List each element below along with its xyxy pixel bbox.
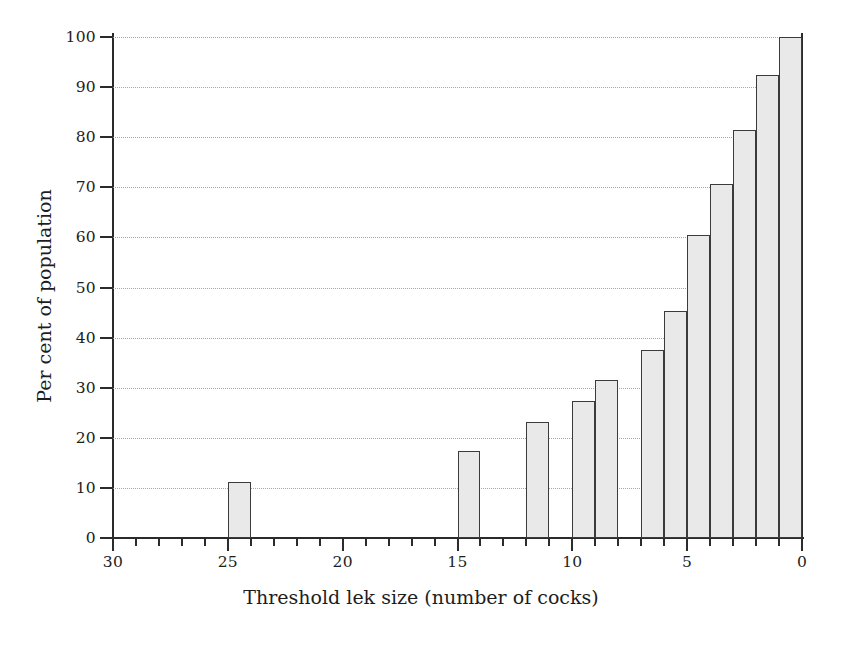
x-axis-major-tick [342,538,344,551]
bar [458,451,481,538]
y-axis-tick [100,437,113,439]
y-axis-tick [100,236,113,238]
x-axis-tick-label: 30 [83,553,143,571]
x-axis-minor-tick [434,538,436,546]
y-axis-tick-label: 30 [36,379,96,397]
x-axis-minor-tick [479,538,481,546]
x-axis-minor-tick [181,538,183,546]
x-axis-minor-tick [663,538,665,546]
y-axis-tick [100,136,113,138]
y-axis-tick-label: 40 [36,329,96,347]
y-axis-tick-label: 60 [36,228,96,246]
x-axis-major-tick [112,538,114,551]
y-axis-tick-label: 90 [36,78,96,96]
x-axis-minor-tick [594,538,596,546]
x-axis-tick-label: 5 [657,553,717,571]
y-axis-tick-labels: 0102030405060708090100 [24,0,96,645]
bar [664,311,687,538]
bar [756,75,779,538]
x-axis-tick-label: 0 [772,553,832,571]
x-axis-minor-tick [548,538,550,546]
x-axis-minor-tick [755,538,757,546]
x-axis-minor-tick [732,538,734,546]
x-axis-major-tick [227,538,229,551]
bar [526,422,549,538]
y-axis-tick-label: 10 [36,479,96,497]
x-axis-tick-label: 10 [542,553,602,571]
y-axis-tick-label: 50 [36,279,96,297]
bar-chart-figure: Per cent of population 01020304050607080… [0,0,842,645]
x-axis-major-tick [686,538,688,551]
y-axis-tick-label: 70 [36,178,96,196]
x-axis-minor-tick [319,538,321,546]
bar [228,482,251,538]
gridline [113,187,802,188]
plot-area [113,37,802,538]
x-axis-minor-tick [640,538,642,546]
bar [779,37,802,538]
x-axis-title: Threshold lek size (number of cocks) [0,586,842,608]
x-axis-tick-label: 15 [428,553,488,571]
x-axis-minor-tick [158,538,160,546]
y-axis-tick [100,86,113,88]
y-axis-tick-label: 80 [36,128,96,146]
gridline [113,137,802,138]
y-axis-tick [100,186,113,188]
x-axis-minor-tick [250,538,252,546]
x-axis-major-tick [571,538,573,551]
x-axis-minor-tick [135,538,137,546]
y-axis-tick-label: 0 [36,529,96,547]
x-axis-minor-tick [411,538,413,546]
x-axis-minor-tick [617,538,619,546]
x-axis-tick-label: 20 [313,553,373,571]
bar [595,380,618,538]
bar [733,130,756,538]
y-axis-tick [100,36,113,38]
x-axis-tick-label: 25 [198,553,258,571]
y-axis-tick-label: 100 [36,28,96,46]
bar [641,350,664,538]
y-axis-tick [100,287,113,289]
gridline [113,87,802,88]
y-axis-tick [100,487,113,489]
y-axis-tick [100,337,113,339]
x-axis-minor-tick [525,538,527,546]
y-axis-tick [100,387,113,389]
x-axis-minor-tick [296,538,298,546]
x-axis-minor-tick [365,538,367,546]
gridline [113,37,802,38]
x-axis-minor-tick [709,538,711,546]
x-axis-minor-tick [204,538,206,546]
bar [687,235,710,538]
x-axis-minor-tick [502,538,504,546]
y-axis-tick-label: 20 [36,429,96,447]
bar [572,401,595,538]
x-axis-minor-tick [778,538,780,546]
x-axis-minor-tick [388,538,390,546]
x-axis-major-tick [457,538,459,551]
bar [710,184,733,538]
x-axis-major-tick [801,538,803,551]
x-axis-minor-tick [273,538,275,546]
